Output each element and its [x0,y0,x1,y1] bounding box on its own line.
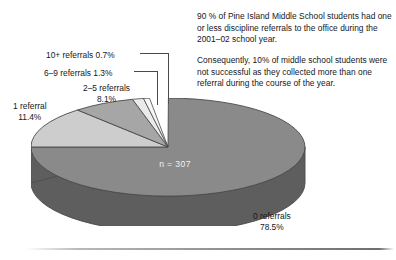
slice-label-2-5-percent: 8.1% [83,94,130,105]
slice-label-10-plus: 10+ referrals 0.7% [46,50,115,61]
slice-label-0-referrals-name: 0 referrals [253,211,291,221]
footer-divider [26,248,394,250]
slice-label-2-5-name: 2–5 referrals [83,83,130,93]
slice-label-1-referral-percent: 11.4% [13,112,47,123]
slice-label-0-referrals-percent: 78.5% [253,222,291,233]
sample-size-label: n = 307 [140,159,210,169]
annotation-paragraph-1: 90 % of Pine Island Middle School studen… [197,11,393,46]
slice-label-0-referrals: 0 referrals 78.5% [253,211,291,232]
slice-label-6-9: 6–9 referrals 1.3% [44,68,112,79]
slice-label-1-referral-name: 1 referral [13,101,47,111]
pie-chart-figure: 90 % of Pine Island Middle School studen… [0,0,396,260]
slice-label-2-5: 2–5 referrals 8.1% [83,83,130,104]
annotation-paragraph-2: Consequently, 10% of middle school stude… [197,55,393,90]
slice-label-1-referral: 1 referral 11.4% [13,101,47,122]
